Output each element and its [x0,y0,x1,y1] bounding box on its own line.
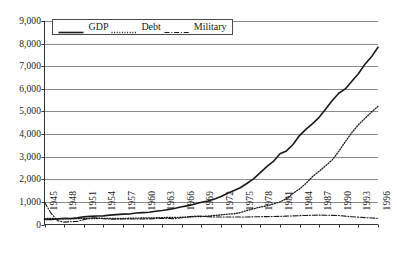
x-axis-tick-label: 1978 [264,191,274,231]
x-axis-tick-label: 1945 [49,191,59,231]
x-axis-tick-label: 1984 [304,191,314,231]
x-axis-tick-label: 1981 [284,191,294,231]
legend-line-swatch-dotted [111,23,137,32]
legend-line-swatch-dashdot [164,23,190,32]
x-axis-tick-label: 1975 [245,191,255,231]
x-axis-tick-label: 1993 [362,191,372,231]
legend-label: Military [194,22,227,32]
x-axis-tick-label: 1972 [225,191,235,231]
x-axis-tick-label: 1966 [186,191,196,231]
x-axis-tick-label: 1963 [166,191,176,231]
legend-items: GDPDebtMilitary [53,20,232,34]
x-axis-tick-label: 1969 [205,191,215,231]
x-axis-tick-label: 1987 [323,191,333,231]
legend-line-swatch-solid [58,23,84,32]
legend-item-debt: Debt [111,22,160,32]
chart-legend: GDPDebtMilitary [52,19,233,35]
line-chart: 9,0008,0007,0006,0005,0004,0003,0002,000… [0,0,397,275]
legend-item-military: Military [164,22,227,32]
x-axis-tick-label: 1960 [147,191,157,231]
x-axis-tick-label: 1957 [127,191,137,231]
x-axis-tick-label: 1990 [343,191,353,231]
legend-label: Debt [141,22,160,32]
legend-label: GDP [88,22,108,32]
x-axis-labels: 1945194819511954195719601963196619691972… [0,0,397,275]
x-axis-tick-label: 1951 [88,191,98,231]
x-axis-tick-label: 1954 [107,191,117,231]
legend-item-gdp: GDP [58,22,108,32]
x-axis-tick-label: 1996 [382,191,392,231]
x-axis-tick-label: 1948 [68,191,78,231]
